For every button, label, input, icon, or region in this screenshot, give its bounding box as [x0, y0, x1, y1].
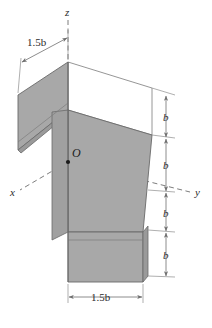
bottom-width-dimension: 1.5b [68, 284, 143, 303]
origin-dot [66, 160, 70, 164]
bottom-width-label: 1.5b [91, 291, 111, 303]
vdim-ext-5 [148, 276, 175, 277]
vertical-dim-label-2: b [163, 159, 169, 171]
central-web-left-strip [52, 110, 68, 240]
top-width-label: 1.5b [27, 36, 47, 48]
origin-label: O [72, 146, 81, 160]
vertical-dim-label-3: b [163, 207, 169, 219]
top-dim-ext-left [18, 58, 21, 93]
y-axis-label: y [194, 186, 200, 198]
figure-container: O z x y 1.5b 1.5b b b b [0, 0, 212, 328]
vdim-ext-1 [152, 88, 175, 95]
lower-right-panel-edge [143, 226, 148, 282]
bent-plate-diagram: O z x y 1.5b 1.5b b b b [0, 0, 212, 328]
vdim-ext-3 [148, 190, 175, 192]
vdim-ext-2 [152, 135, 175, 138]
vertical-dim-label-4: b [163, 249, 169, 261]
lower-right-panel [68, 232, 143, 282]
vdim-ext-4 [148, 230, 175, 232]
vertical-dim-label-1: b [163, 111, 169, 123]
z-axis-label: z [64, 6, 70, 18]
x-axis-label: x [9, 186, 15, 198]
